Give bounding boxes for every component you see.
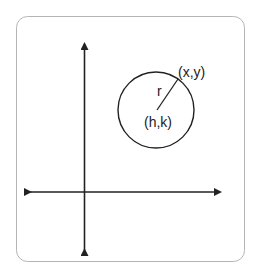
center-label: (h,k): [144, 114, 172, 130]
radius-label: r: [157, 83, 162, 99]
circle-equation-diagram: (x,y) r (h,k): [0, 0, 256, 276]
point-on-circle-label: (x,y): [178, 64, 205, 80]
